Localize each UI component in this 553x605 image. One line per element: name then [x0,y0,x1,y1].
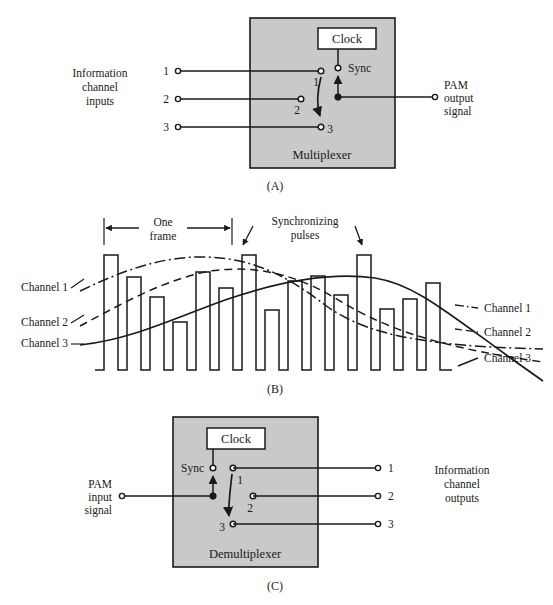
input-number-1: 1 [163,65,169,77]
demux-contact-number-3: 3 [219,521,225,533]
input-number-3: 3 [163,121,169,133]
panel-b-waveforms: One frame Synchronizing pulses Channel 1… [21,215,543,396]
right-legend-channel-1: Channel 1 [484,302,531,314]
input-terminal-3 [175,124,180,129]
mux-contact-1 [318,68,324,74]
input-group-label-line2: channel [82,81,118,93]
output-terminal-2 [375,493,380,498]
output-label-a-line2: output [444,92,474,105]
caption-c: (C) [267,579,283,593]
sync-pulses-label-line2: pulses [291,229,320,242]
multiplexer-block-label: Multiplexer [292,148,352,162]
left-legend-channel-2: Channel 2 [21,316,68,328]
sync-terminal-a [335,65,341,71]
output-terminal-3 [375,521,380,526]
output-group-label-line2: channel [444,478,480,490]
mux-contact-number-3: 3 [327,123,333,135]
input-label-c-line1: PAM [88,478,112,490]
mux-contact-2 [298,96,304,102]
left-legend-channel-1: Channel 1 [21,281,68,293]
clock-label-a: Clock [332,32,363,46]
demux-contact-number-2: 2 [247,502,253,514]
output-group-label-line1: Information [435,464,490,476]
sync-pulse-arrow-1 [243,226,253,245]
caption-b: (B) [267,382,283,396]
input-number-2: 2 [163,93,169,105]
output-number-2: 2 [388,490,394,502]
left-legend-channel-3: Channel 3 [21,337,68,349]
sync-pulse-arrow-2 [355,226,362,245]
input-terminal-c [119,493,124,498]
output-number-3: 3 [388,518,394,530]
caption-a: (A) [267,179,284,193]
output-number-1: 1 [388,462,394,474]
mux-contact-3 [318,124,324,130]
figure-svg: 1 2 3 Information channel inputs 1 2 3 C… [0,0,553,605]
demux-contact-number-1: 1 [237,474,243,486]
input-group-label-line1: Information [73,67,128,79]
output-label-a-line3: signal [444,105,471,118]
input-terminal-2 [175,96,180,101]
output-label-a-line1: PAM [444,79,468,91]
mux-contact-number-2: 2 [294,104,300,116]
input-label-c-line3: signal [85,504,112,517]
sync-pulses-label-line1: Synchronizing [271,215,338,228]
panel-c-demultiplexer: PAM input signal Clock Sync 1 2 3 1 2 3 … [85,417,490,593]
clock-label-c: Clock [221,432,252,446]
demultiplexer-block-label: Demultiplexer [209,547,282,561]
right-leader-channel-3 [458,358,478,366]
left-leader-channel-1 [71,279,84,288]
output-terminal-a [432,94,437,99]
right-legend-channel-2: Channel 2 [484,326,531,338]
right-legend-channel-3: Channel 3 [484,352,531,364]
input-label-c-line2: input [88,491,112,504]
input-group-label-line3: inputs [86,95,115,108]
figure-tdm-pam: 1 2 3 Information channel inputs 1 2 3 C… [0,0,553,605]
left-leader-channel-2 [71,315,84,323]
sync-terminal-c [210,465,216,471]
right-leader-channel-1 [455,305,478,308]
panel-a-multiplexer: 1 2 3 Information channel inputs 1 2 3 C… [73,18,475,193]
frame-label-line1: One [153,216,172,228]
output-terminal-1 [375,465,380,470]
input-terminal-1 [175,68,180,73]
sync-label-a: Sync [348,62,371,75]
output-group-label-line3: outputs [445,492,479,505]
frame-label-line2: frame [150,230,177,242]
sync-label-c: Sync [181,462,204,475]
